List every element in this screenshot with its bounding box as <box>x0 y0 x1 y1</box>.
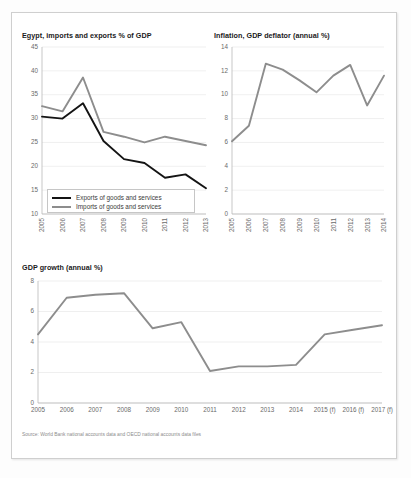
x-axis-tick-label: 2017 (f) <box>371 406 393 414</box>
y-axis-tick-label: 35 <box>31 90 39 97</box>
gdp-growth-svg: 0246820052006200720082009201020112012201… <box>22 275 390 425</box>
inflation-svg: 0246810121420052006200720082009201020112… <box>214 43 390 248</box>
y-axis-tick-label: 45 <box>31 43 39 50</box>
legend-swatch-imports <box>52 206 71 208</box>
x-axis-tick-label: 2010 <box>141 218 148 233</box>
y-axis-tick-label: 0 <box>30 399 34 406</box>
x-axis-tick-label: 2014 <box>289 406 304 413</box>
x-axis-tick-label: 2007 <box>262 218 269 233</box>
imports-exports-svg: 1015202530354045200520062007200820092010… <box>22 43 210 248</box>
x-axis-tick-label: 2007 <box>88 406 103 413</box>
chart-title-gdp-growth: GDP growth (annual %) <box>22 263 390 272</box>
y-axis-tick-label: 10 <box>31 210 39 217</box>
y-axis-tick-label: 2 <box>30 368 34 375</box>
x-axis-tick-label: 2005 <box>228 218 235 233</box>
legend-label-imports: Imports of goods and services <box>76 203 161 210</box>
legend-row-exports: Exports of goods and services <box>52 193 189 202</box>
chart-plot-gdp-growth: 0246820052006200720082009201020112012201… <box>22 275 390 425</box>
chart-plot-imports-exports: 1015202530354045200520062007200820092010… <box>22 43 210 248</box>
y-axis-tick-label: 6 <box>224 138 228 145</box>
x-axis-tick-label: 2012 <box>347 218 354 233</box>
legend-row-imports: Imports of goods and services <box>52 202 189 211</box>
x-axis-tick-label: 2009 <box>120 218 127 233</box>
x-axis-tick-label: 2013 <box>364 218 371 233</box>
x-axis-tick-label: 2006 <box>245 218 252 233</box>
x-axis-tick-label: 2008 <box>100 218 107 233</box>
x-axis-tick-label: 2007 <box>79 218 86 233</box>
x-axis-tick-label: 2015 (f) <box>314 406 336 414</box>
x-axis-tick-label: 2011 <box>161 218 168 232</box>
x-axis-tick-label: 2010 <box>313 218 320 233</box>
x-axis-tick-label: 2009 <box>296 218 303 233</box>
data-series-line-0 <box>38 293 382 371</box>
x-axis-tick-label: 2011 <box>330 218 337 232</box>
chart-panel-gdp-growth: GDP growth (annual %) 024682005200620072… <box>22 263 390 428</box>
report-page: Egypt, imports and exports % of GDP 1015… <box>0 0 411 478</box>
x-axis-tick-label: 2006 <box>59 218 66 233</box>
x-axis-tick-label: 2012 <box>182 218 189 233</box>
y-axis-tick-label: 8 <box>224 114 228 121</box>
y-axis-tick-label: 20 <box>31 162 39 169</box>
x-axis-tick-label: 2011 <box>203 406 217 413</box>
chart-plot-inflation: 0246810121420052006200720082009201020112… <box>214 43 390 248</box>
x-axis-tick-label: 2013 <box>260 406 275 413</box>
x-axis-tick-label: 2006 <box>60 406 75 413</box>
figure-frame: Egypt, imports and exports % of GDP 1015… <box>11 12 397 459</box>
data-series-line-1 <box>42 78 206 146</box>
y-axis-tick-label: 14 <box>221 43 229 50</box>
data-series-line-0 <box>42 103 206 188</box>
x-axis-tick-label: 2009 <box>146 406 161 413</box>
legend-swatch-exports <box>52 197 71 199</box>
x-axis-tick-label: 2016 (f) <box>342 406 364 414</box>
y-axis-tick-label: 0 <box>224 210 228 217</box>
x-axis-tick-label: 2010 <box>174 406 189 413</box>
legend-label-exports: Exports of goods and services <box>76 194 162 201</box>
legend-imports-exports: Exports of goods and services Imports of… <box>47 189 195 213</box>
x-axis-tick-label: 2014 <box>380 218 387 233</box>
y-axis-tick-label: 2 <box>224 186 228 193</box>
data-series-line-0 <box>232 64 384 142</box>
y-axis-tick-label: 30 <box>31 114 39 121</box>
y-axis-tick-label: 15 <box>31 186 39 193</box>
y-axis-tick-label: 8 <box>30 277 34 284</box>
source-note: Source: World Bank national accounts dat… <box>22 432 201 437</box>
y-axis-tick-label: 6 <box>30 307 34 314</box>
y-axis-tick-label: 12 <box>221 67 229 74</box>
x-axis-tick-label: 2005 <box>38 218 45 233</box>
y-axis-tick-label: 40 <box>31 67 39 74</box>
x-axis-tick-label: 2012 <box>232 406 247 413</box>
chart-title-inflation: Inflation, GDP deflator (annual %) <box>214 31 390 40</box>
y-axis-tick-label: 10 <box>221 90 229 97</box>
x-axis-tick-label: 2008 <box>279 218 286 233</box>
chart-panel-imports-exports: Egypt, imports and exports % of GDP 1015… <box>22 31 210 253</box>
chart-title-imports-exports: Egypt, imports and exports % of GDP <box>22 31 210 40</box>
y-axis-tick-label: 4 <box>30 338 34 345</box>
x-axis-tick-label: 2008 <box>117 406 132 413</box>
y-axis-tick-label: 25 <box>31 138 39 145</box>
chart-panel-inflation: Inflation, GDP deflator (annual %) 02468… <box>214 31 390 253</box>
x-axis-tick-label: 2013 <box>202 218 209 233</box>
y-axis-tick-label: 4 <box>224 162 228 169</box>
x-axis-tick-label: 2005 <box>31 406 46 413</box>
